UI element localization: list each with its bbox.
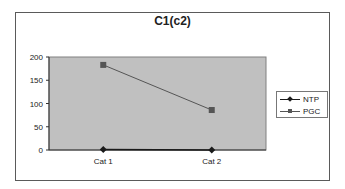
plot-area (49, 57, 266, 150)
y-axis-ticks: 050100150200 (30, 53, 49, 155)
y-tick-label: 0 (39, 146, 44, 155)
square-marker-icon (100, 62, 106, 68)
y-tick-label: 100 (30, 100, 44, 109)
diamond-marker-icon (287, 96, 293, 102)
y-tick-label: 200 (30, 53, 44, 62)
legend-item-pgc: PGC (280, 105, 320, 117)
x-tick-label: Cat 1 (94, 157, 114, 166)
square-marker-icon (288, 109, 292, 113)
y-tick-label: 50 (34, 123, 43, 132)
legend-label-ntp: NTP (303, 95, 319, 104)
x-axis-ticks: Cat 1Cat 2 (94, 157, 222, 166)
square-marker-icon (209, 107, 215, 113)
legend: NTP PGC (276, 91, 328, 118)
legend-label-pgc: PGC (303, 107, 320, 116)
legend-item-ntp: NTP (280, 93, 319, 105)
x-tick-label: Cat 2 (202, 157, 222, 166)
y-tick-label: 150 (30, 76, 44, 85)
